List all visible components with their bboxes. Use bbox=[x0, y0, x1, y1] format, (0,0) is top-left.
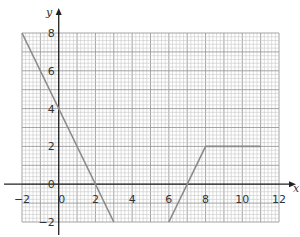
x-tick-label: 6 bbox=[165, 193, 172, 206]
x-tick-label: 4 bbox=[129, 193, 136, 206]
y-axis-arrow-icon bbox=[56, 8, 62, 15]
x-tick-label: 2 bbox=[92, 193, 99, 206]
y-tick-label: 0 bbox=[48, 178, 55, 191]
y-tick-label: 8 bbox=[48, 27, 55, 40]
x-tick-label: 0 bbox=[58, 193, 65, 206]
y-axis-label: y bbox=[45, 6, 53, 19]
x-axis-label: x bbox=[293, 182, 300, 195]
x-tick-label: 10 bbox=[235, 193, 249, 206]
x-tick-label: 8 bbox=[202, 193, 209, 206]
y-tick-label: 4 bbox=[48, 103, 55, 116]
y-tick-label: −2 bbox=[38, 216, 54, 229]
line-graph: −2024681012−202468 x y bbox=[0, 0, 300, 237]
x-tick-label: 12 bbox=[272, 193, 286, 206]
tick-labels: −2024681012−202468 bbox=[14, 27, 286, 229]
y-tick-label: 2 bbox=[48, 140, 55, 153]
x-tick-label: −2 bbox=[14, 193, 30, 206]
y-tick-label: 6 bbox=[48, 65, 55, 78]
